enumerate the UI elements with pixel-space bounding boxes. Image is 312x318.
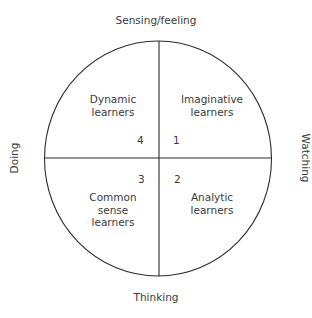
quadrant-number-1: 1: [173, 134, 180, 146]
axis-label-watching: Watching: [300, 128, 312, 188]
quadrant-label-line: learners: [73, 106, 153, 119]
quadrant-dynamic-learners: Dynamic learners: [73, 93, 153, 118]
quadrant-label-line: sense: [73, 204, 153, 217]
quadrant-common-sense-learners: Common sense learners: [73, 191, 153, 229]
quadrant-number-2: 2: [174, 173, 181, 185]
quadrant-analytic-learners: Analytic learners: [172, 191, 252, 216]
axis-label-sensing-feeling: Sensing/feeling: [0, 14, 312, 26]
quadrant-label-line: Analytic: [172, 191, 252, 204]
axis-label-thinking: Thinking: [0, 291, 312, 303]
learning-styles-circle: [0, 0, 312, 318]
quadrant-label-line: learners: [73, 216, 153, 229]
axis-label-doing: Doing: [8, 130, 20, 186]
quadrant-label-line: Common: [73, 191, 153, 204]
quadrant-number-3: 3: [138, 173, 145, 185]
quadrant-number-4: 4: [137, 134, 144, 146]
quadrant-label-line: Imaginative: [172, 93, 252, 106]
quadrant-label-line: Dynamic: [73, 93, 153, 106]
quadrant-imaginative-learners: Imaginative learners: [172, 93, 252, 118]
quadrant-label-line: learners: [172, 204, 252, 217]
quadrant-label-line: learners: [172, 106, 252, 119]
